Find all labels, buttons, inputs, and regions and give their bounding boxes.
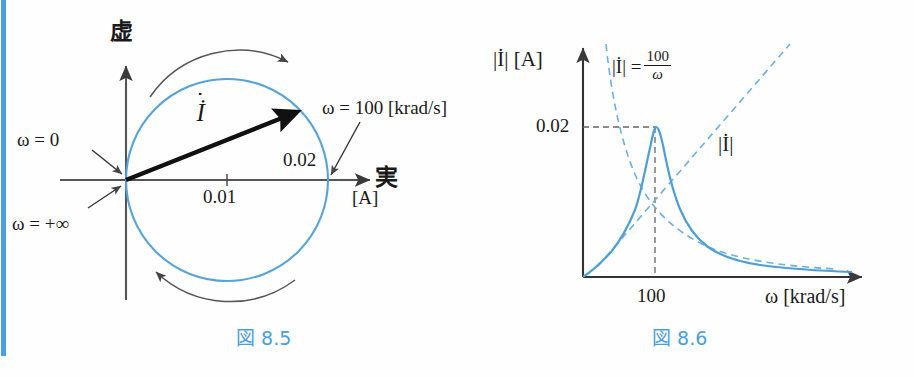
fig86-caption: 図 8.6 — [652, 329, 707, 348]
fig85-phasor-arrow — [126, 112, 297, 180]
fig-8-5-graphics — [60, 50, 370, 301]
phasor-glyph: İ — [196, 100, 205, 125]
figures-graphics — [0, 0, 914, 377]
fig85-annotation-omega-infinity: ω = +∞ — [12, 214, 69, 233]
fig85-rotation-arc-lower — [156, 272, 295, 302]
fig86-x-axis-label: ω [krad/s] — [765, 286, 845, 306]
fig85-annotation-omega-100: ω = 100 [krad/s] — [322, 98, 447, 117]
fig86-y-axis-label-text: |İ| [A] — [493, 47, 543, 71]
fig85-tick-label-0-02: 0.02 — [283, 150, 316, 169]
fig86-x-axis-label-text: ω [krad/s] — [765, 285, 845, 307]
fig85-real-axis-label: 実 — [375, 166, 398, 189]
fig86-y-axis-label: |İ| [A] — [493, 49, 543, 70]
fig85-leader-omega-infinity — [88, 186, 121, 208]
fig86-curve-label: |İ| — [718, 134, 733, 155]
fig85-rotation-arc-upper — [150, 50, 288, 97]
fig86-asymptote-label: |İ| = 100 ω — [612, 50, 671, 84]
fig86-asymptote-label-lhs: |İ| = — [612, 57, 641, 76]
fig85-caption: 図 8.5 — [236, 329, 291, 348]
fig85-phasor-label: İ — [196, 100, 205, 125]
fig86-x-tick-label: 100 — [637, 286, 666, 305]
figure-page: 虚 実 [A] 0.01 0.02 ω = 0 ω = +∞ ω = 100 [… — [0, 0, 914, 377]
fig85-tick-label-0-01: 0.01 — [203, 187, 236, 206]
fig85-leader-omega-100 — [331, 122, 360, 175]
fig85-annotation-omega-zero: ω = 0 — [17, 130, 59, 149]
fig85-leader-omega-zero — [92, 150, 122, 174]
fig86-asymptote-denominator: ω — [644, 67, 671, 83]
fig85-imaginary-axis-label: 虚 — [110, 20, 133, 43]
fig86-y-tick-label: 0.02 — [536, 116, 569, 135]
fig86-asymptote-fraction: 100 ω — [644, 49, 671, 83]
fig86-asymptote-numerator: 100 — [644, 49, 671, 65]
fig85-real-axis-unit: [A] — [352, 188, 378, 207]
